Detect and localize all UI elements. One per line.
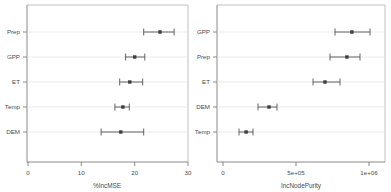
incnodepurity-errorbar-gpp xyxy=(335,29,370,36)
incmse-category-prep: Prep xyxy=(7,28,21,35)
incnodepurity-errorbar-prep xyxy=(330,54,360,61)
incmse-errorbar-gpp xyxy=(126,54,145,61)
incnodepurity-plot-frame xyxy=(217,5,385,162)
incmse-xtick-1: 10 xyxy=(78,169,85,176)
incmse-point-et xyxy=(128,80,131,83)
incmse-category-gpp: GPP xyxy=(7,53,20,60)
incmse-plot: 0 10 20 30 Prep GPP ET Temp DEM xyxy=(0,0,195,192)
incnodepurity-y-ticks: GPP Prep ET DEM Temp xyxy=(195,28,217,135)
panel-incmse: 0 10 20 30 Prep GPP ET Temp DEM xyxy=(0,0,195,192)
variable-importance-figure: 0 10 20 30 Prep GPP ET Temp DEM xyxy=(0,0,391,192)
incnodepurity-xtick-1: 5e+05 xyxy=(287,169,305,176)
incmse-errorbar-temp xyxy=(115,104,129,111)
incmse-errorbar-dem xyxy=(101,129,144,136)
incmse-y-ticks: Prep GPP ET Temp DEM xyxy=(5,28,27,135)
incmse-point-temp xyxy=(121,105,124,108)
incnodepurity-x-ticks: 0 5e+05 1e+06 xyxy=(221,162,378,176)
incmse-x-ticks: 0 10 20 30 xyxy=(26,162,192,176)
incmse-point-prep xyxy=(158,30,161,33)
incnodepurity-xtick-2: 1e+06 xyxy=(360,169,378,176)
incmse-point-dem xyxy=(119,130,122,133)
incnodepurity-xtick-0: 0 xyxy=(221,169,225,176)
incnodepurity-gridlines xyxy=(217,32,385,132)
incmse-category-temp: Temp xyxy=(5,103,21,110)
incmse-xtick-2: 20 xyxy=(131,169,138,176)
incnodepurity-plot: 0 5e+05 1e+06 GPP Prep ET DEM Temp xyxy=(195,0,391,192)
incmse-gridlines xyxy=(27,32,188,132)
incnodepurity-errorbar-dem xyxy=(258,104,277,111)
incmse-errorbar-prep xyxy=(144,29,174,36)
incnodepurity-category-gpp: GPP xyxy=(197,28,210,35)
incnodepurity-point-dem xyxy=(267,105,270,108)
incmse-point-gpp xyxy=(133,55,136,58)
incnodepurity-point-temp xyxy=(244,130,247,133)
incnodepurity-category-temp: Temp xyxy=(195,128,211,135)
incnodepurity-errorbar-temp xyxy=(239,129,253,136)
incmse-category-et: ET xyxy=(12,78,20,85)
incnodepurity-point-et xyxy=(323,80,326,83)
incnodepurity-errorbar-et xyxy=(313,79,340,86)
panel-incnodepurity: 0 5e+05 1e+06 GPP Prep ET DEM Temp xyxy=(195,0,390,192)
incnodepurity-point-gpp xyxy=(350,30,353,33)
incnodepurity-category-prep: Prep xyxy=(197,53,211,60)
incmse-axis-title: %IncMSE xyxy=(93,182,121,189)
incmse-xtick-0: 0 xyxy=(26,169,30,176)
incmse-xtick-3: 30 xyxy=(185,169,192,176)
incmse-errorbar-et xyxy=(120,79,143,86)
incnodepurity-category-dem: DEM xyxy=(196,103,210,110)
incnodepurity-axis-title: IncNodePurity xyxy=(281,182,322,190)
incnodepurity-category-et: ET xyxy=(202,78,210,85)
incmse-category-dem: DEM xyxy=(6,128,20,135)
incnodepurity-point-prep xyxy=(345,55,348,58)
incmse-plot-frame xyxy=(27,5,188,162)
